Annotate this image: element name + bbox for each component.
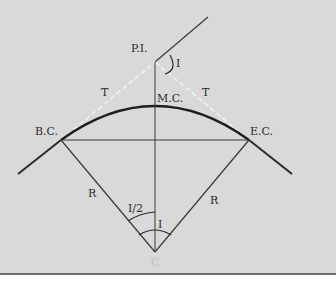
curve-diagram: P.I. I T T M.C. B.C. E.C. R R I/2 I C	[0, 0, 336, 281]
label-center: C	[151, 256, 159, 269]
label-ec: E.C.	[250, 125, 273, 138]
label-mc: M.C.	[157, 92, 183, 105]
deflection-angle-arc	[165, 55, 173, 74]
label-tangent-left: T	[101, 86, 109, 99]
tangent-extension-line	[155, 17, 208, 62]
label-central-angle: I	[158, 218, 162, 231]
label-bc: B.C.	[35, 125, 58, 138]
label-deflection-angle: I	[176, 57, 180, 70]
label-pi: P.I.	[131, 42, 148, 55]
label-half-angle: I/2	[128, 202, 143, 215]
label-radius-right: R	[210, 194, 219, 207]
tangent-t-left	[61, 62, 155, 140]
radius-left	[61, 140, 155, 252]
forward-tangent-line	[249, 140, 292, 174]
back-tangent-line	[18, 140, 61, 174]
radius-right	[155, 140, 249, 252]
diagram-panel: P.I. I T T M.C. B.C. E.C. R R I/2 I C	[0, 0, 336, 275]
label-tangent-right: T	[202, 86, 210, 99]
label-radius-left: R	[88, 187, 97, 200]
